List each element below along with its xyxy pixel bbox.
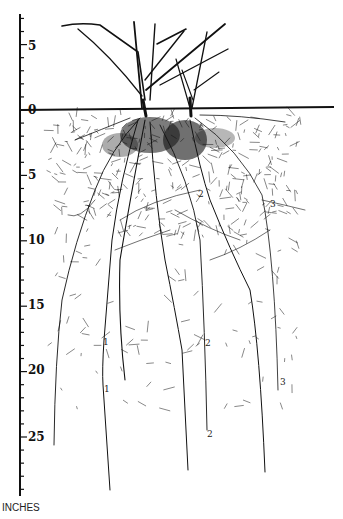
root-label: 2 bbox=[205, 339, 211, 348]
roots bbox=[54, 115, 305, 490]
ruler-tick-label: 25 bbox=[28, 431, 45, 443]
ruler-tick-label: 20 bbox=[28, 364, 45, 376]
units-label: INCHES bbox=[2, 502, 40, 513]
root-label: 2 bbox=[198, 190, 204, 199]
root-crown-mass bbox=[102, 117, 235, 160]
ruler-tick-label: 0 bbox=[28, 104, 36, 116]
root-label: 1 bbox=[103, 338, 109, 347]
root-label: 3 bbox=[270, 200, 276, 209]
plant-shoots bbox=[62, 22, 228, 116]
ruler-tick-label: 15 bbox=[28, 299, 45, 311]
ruler-tick-label: 5 bbox=[28, 169, 36, 181]
root-system-figure: 50510152025 1 1 2 2 2 3 3 INCHES bbox=[0, 0, 343, 519]
root-drawing bbox=[0, 0, 343, 519]
root-label: 2 bbox=[207, 430, 213, 439]
ruler-tick-label: 5 bbox=[28, 40, 36, 52]
root-label: 1 bbox=[104, 385, 110, 394]
soil-surface-line bbox=[20, 107, 334, 110]
ruler-ticks bbox=[20, 18, 27, 489]
ruler-tick-label: 10 bbox=[28, 234, 45, 246]
root-label: 3 bbox=[280, 378, 286, 387]
